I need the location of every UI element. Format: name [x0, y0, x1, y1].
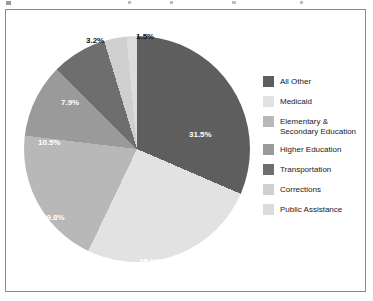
- slice-label-elementary-secondary-education: 19.8%: [42, 214, 65, 222]
- pie-graphic: [24, 36, 250, 262]
- legend-item[interactable]: Transportation: [263, 164, 367, 176]
- legend-item[interactable]: Public Assistance: [263, 204, 367, 216]
- cut-off-caption-artifacts: [0, 0, 373, 8]
- legend-item-label: Higher Education: [280, 144, 341, 155]
- legend-swatch-icon: [263, 204, 274, 215]
- slice-label-corrections: 3.2%: [86, 37, 104, 45]
- slice-label-higher-education: 10.5%: [38, 139, 61, 147]
- slice-label-transportation: 7.9%: [61, 99, 79, 107]
- legend-item-label: Medicaid: [280, 96, 312, 107]
- legend-swatch-icon: [263, 116, 274, 127]
- legend-item-label: All Other: [280, 76, 311, 87]
- legend-item[interactable]: Corrections: [263, 184, 367, 196]
- pie-wrapper: 31.5% 25.6% 19.8% 10.5% 7.9% 3.2% 1.5%: [24, 36, 250, 262]
- caption-artifact-mark: [300, 1, 303, 4]
- chart-panel: 31.5% 25.6% 19.8% 10.5% 7.9% 3.2% 1.5% A…: [5, 9, 366, 292]
- chart-legend: All OtherMedicaidElementary &Secondary E…: [263, 76, 367, 216]
- legend-swatch-icon: [263, 164, 274, 175]
- caption-artifact-mark: [128, 1, 131, 4]
- legend-item-label: Corrections: [280, 184, 321, 195]
- figure-container: 31.5% 25.6% 19.8% 10.5% 7.9% 3.2% 1.5% A…: [0, 0, 373, 301]
- legend-item[interactable]: Medicaid: [263, 96, 367, 108]
- legend-swatch-icon: [263, 76, 274, 87]
- legend-swatch-icon: [263, 144, 274, 155]
- legend-item[interactable]: Elementary &Secondary Education: [263, 116, 367, 136]
- legend-swatch-icon: [263, 184, 274, 195]
- caption-artifact-mark: [232, 1, 236, 4]
- pie-chart-area: 31.5% 25.6% 19.8% 10.5% 7.9% 3.2% 1.5%: [6, 10, 256, 293]
- legend-item-label-line1: Elementary &: [280, 117, 328, 126]
- legend-item-label: Elementary &Secondary Education: [280, 116, 356, 136]
- slice-label-public-assistance: 1.5%: [136, 33, 154, 41]
- caption-artifact-mark: [170, 1, 173, 4]
- legend-swatch-icon: [263, 96, 274, 107]
- legend-item[interactable]: All Other: [263, 76, 367, 88]
- caption-artifact-mark: [6, 1, 11, 5]
- legend-item-label: Public Assistance: [280, 204, 342, 215]
- legend-item[interactable]: Higher Education: [263, 144, 367, 156]
- slice-label-medicaid: 25.6%: [139, 258, 162, 266]
- legend-item-label-line2: Secondary Education: [280, 127, 356, 137]
- slice-label-all-other: 31.5%: [189, 131, 212, 139]
- legend-item-label: Transportation: [280, 164, 331, 175]
